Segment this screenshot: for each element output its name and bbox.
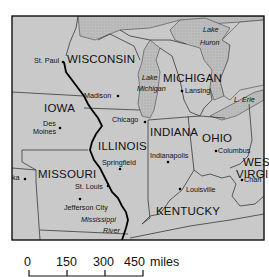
city-label-jefferson-city: Jefferson City (64, 203, 108, 212)
city-label-des-moines-2: Moines (33, 127, 57, 136)
map: WISCONSIN MICHIGAN IOWA ILLINOIS INDIANA… (0, 0, 269, 277)
city-label-st-paul: St. Paul (34, 56, 60, 65)
scale-tick-label-450: 450 (124, 255, 145, 269)
city-label-topeka: ka (12, 173, 20, 182)
state-label-ohio: OHIO (202, 132, 232, 144)
water-label-lake-huron-1: Lake (203, 25, 219, 34)
state-label-iowa: IOWA (44, 102, 75, 114)
city-dot-des-moines (59, 127, 62, 130)
scale-tick-label-300: 300 (93, 255, 114, 269)
scale-tick-label-150: 150 (56, 255, 77, 269)
state-label-kentucky: KENTUCKY (156, 205, 220, 217)
water-label-river-2: River (103, 226, 120, 235)
city-label-st-louis: St. Louis (75, 182, 103, 191)
state-label-michigan: MICHIGAN (163, 72, 222, 84)
city-dot-st-louis (107, 185, 110, 188)
water-label-river-1: Mississippi (81, 215, 116, 224)
scale-unit-label: miles (150, 255, 179, 269)
water-label-lake-erie: L. Erie (234, 95, 255, 104)
scale-bar-line (29, 270, 143, 276)
city-dot-louisville (179, 188, 182, 191)
city-label-chicago: Chicago (112, 115, 138, 124)
city-dot-chicago (144, 121, 147, 124)
city-dot-jefferson-city (79, 198, 82, 201)
city-dot-lansing (181, 90, 184, 93)
state-label-west-virginia-1: WES (243, 156, 269, 168)
city-dot-columbus (215, 150, 218, 153)
city-dot-charleston (241, 179, 244, 182)
scale-bar: 0 150 300 450 miles (24, 255, 179, 276)
city-dot-madison (117, 95, 120, 98)
water-label-lake-michigan-1: Lake (142, 73, 158, 82)
city-label-springfield: Springfield (102, 158, 136, 167)
city-dot-springfield (119, 168, 122, 171)
scale-tick-label-0: 0 (24, 255, 31, 269)
water-label-lake-michigan-2: Michigan (137, 84, 166, 93)
state-label-missouri: MISSOURI (38, 168, 96, 180)
city-label-lansing: Lansing (185, 86, 210, 95)
city-dot-topeka (24, 178, 27, 181)
city-label-indianapolis: Indianapolis (150, 151, 189, 160)
city-label-columbus: Columbus (218, 146, 251, 155)
state-label-wisconsin: WISCONSIN (67, 53, 135, 65)
city-label-louisville: Louisville (186, 185, 216, 194)
city-label-charleston: Charl (244, 175, 262, 184)
water-label-lake-huron-2: Huron (200, 38, 220, 47)
city-label-madison: Madison (84, 91, 111, 100)
state-label-illinois: ILLINOIS (98, 140, 147, 152)
city-dot-indianapolis (167, 161, 170, 164)
city-dot-st-paul (62, 61, 65, 64)
state-label-indiana: INDIANA (150, 126, 198, 138)
